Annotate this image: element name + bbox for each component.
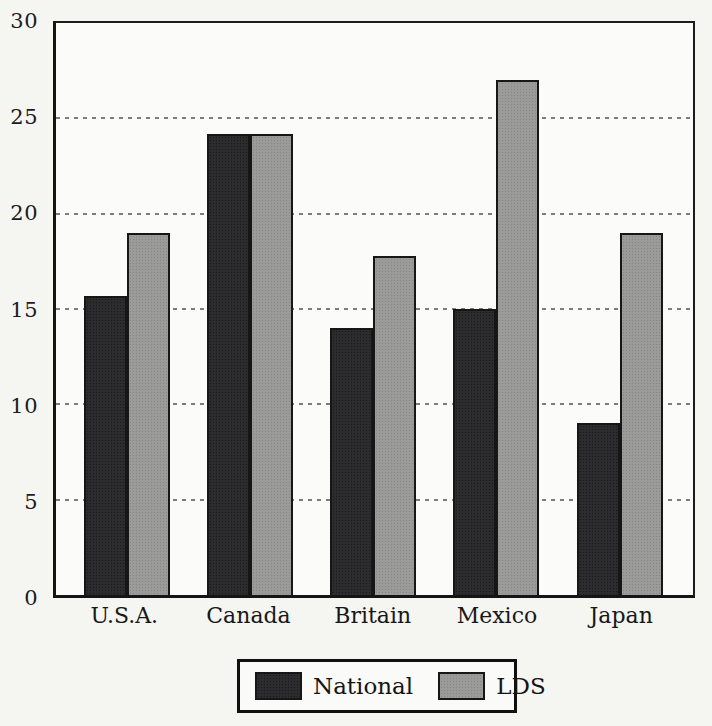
bar-lds-japan xyxy=(620,233,663,595)
x-label-britain: Britain xyxy=(334,603,411,628)
y-tick-label-20: 20 xyxy=(10,201,38,225)
scanned-chart-page: 051015202530 U.S.A.CanadaBritainMexicoJa… xyxy=(0,0,712,726)
legend-box: NationalLDS xyxy=(237,659,517,713)
bar-national-usa xyxy=(84,296,127,595)
bar-lds-canada xyxy=(250,134,293,595)
y-axis-tick-labels: 051015202530 xyxy=(0,21,45,598)
legend-label-national: National xyxy=(313,673,413,699)
bar-group-japan xyxy=(577,23,663,595)
legend-item-national: National xyxy=(255,672,413,700)
x-label-japan: Japan xyxy=(590,603,653,628)
x-label-canada: Canada xyxy=(206,603,290,628)
bar-lds-britain xyxy=(373,256,416,595)
bar-group-canada xyxy=(207,23,293,595)
bar-group-britain xyxy=(330,23,416,595)
bar-national-britain xyxy=(330,328,373,595)
y-tick-label-15: 15 xyxy=(10,298,38,322)
y-tick-label-25: 25 xyxy=(10,105,38,129)
y-tick-label-30: 30 xyxy=(10,9,38,33)
legend-swatch-national xyxy=(255,672,302,700)
bar-lds-usa xyxy=(127,233,170,595)
y-tick-label-0: 0 xyxy=(24,586,38,610)
bar-national-japan xyxy=(577,423,620,595)
y-tick-label-10: 10 xyxy=(10,394,38,418)
bar-national-mexico xyxy=(453,309,496,595)
x-label-usa: U.S.A. xyxy=(90,603,158,628)
bar-national-canada xyxy=(207,134,250,595)
legend-label-lds: LDS xyxy=(496,673,545,699)
bar-group-usa xyxy=(84,23,170,595)
legend-swatch-lds xyxy=(438,672,485,700)
legend-item-lds: LDS xyxy=(438,672,545,700)
y-tick-label-5: 5 xyxy=(24,490,38,514)
plot-area xyxy=(53,21,695,598)
bar-lds-mexico xyxy=(496,80,539,595)
x-label-mexico: Mexico xyxy=(457,603,538,628)
bar-group-mexico xyxy=(453,23,539,595)
x-axis-category-labels: U.S.A.CanadaBritainMexicoJapan xyxy=(53,603,695,637)
